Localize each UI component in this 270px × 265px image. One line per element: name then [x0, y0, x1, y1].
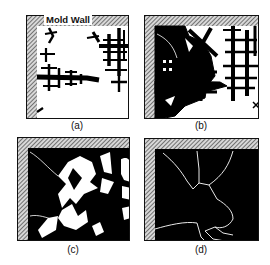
- panel-c: [17, 137, 130, 241]
- caption-d: (d): [181, 244, 221, 255]
- caption-b: (b): [181, 120, 221, 131]
- panel-a: [26, 15, 129, 119]
- caption-c: (c): [53, 244, 93, 255]
- panel-b: [144, 15, 259, 119]
- grain-boundary-diagram: [145, 139, 259, 241]
- late-solidification-diagram: [18, 138, 130, 241]
- mold-wall-label: Mold Wall: [44, 14, 92, 25]
- caption-a: (a): [57, 120, 97, 131]
- panel-d: [144, 138, 259, 241]
- early-dendrite-growth-diagram: [27, 16, 129, 119]
- columnar-growth-diagram: [145, 16, 259, 119]
